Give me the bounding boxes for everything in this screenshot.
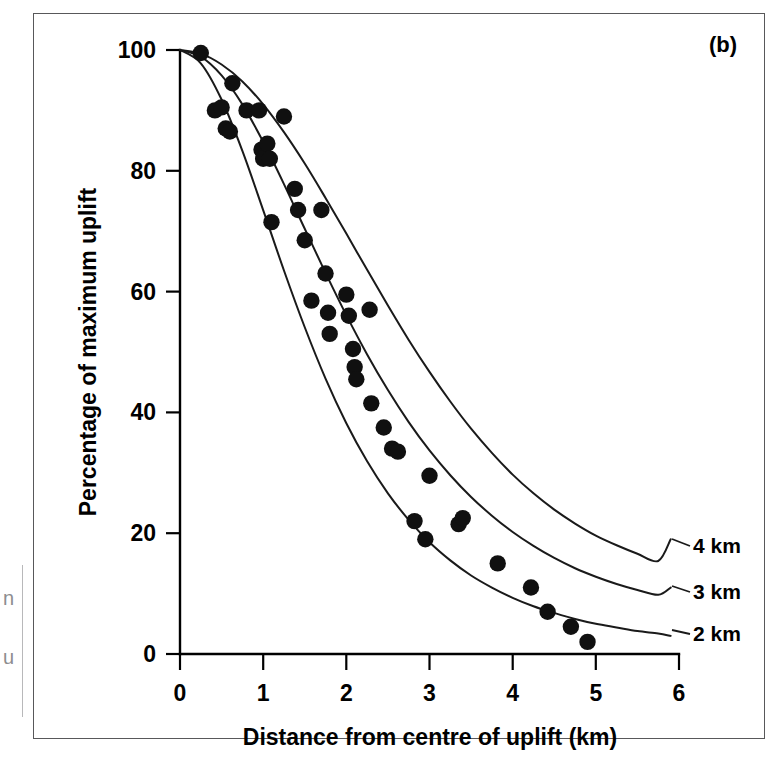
x-tick-label-4: 4 (506, 680, 519, 706)
figure-root: 100 80 60 40 20 0 0 1 2 3 4 5 6 Distance… (0, 0, 781, 766)
x-tick-label-2: 2 (340, 680, 353, 706)
curve-label-2km: 2 km (693, 622, 741, 645)
data-point (341, 308, 357, 324)
curve-3km (180, 50, 671, 595)
data-point (320, 305, 336, 321)
panel-label: (b) (709, 32, 737, 57)
data-point (262, 151, 278, 167)
data-point (193, 45, 209, 61)
y-axis-ticks (166, 50, 180, 654)
curve-4km (180, 50, 671, 561)
data-point (490, 555, 506, 571)
data-point (259, 135, 275, 151)
data-point (406, 513, 422, 529)
x-axis-tick-labels: 0 1 2 3 4 5 6 (174, 680, 686, 706)
x-tick-label-3: 3 (423, 680, 436, 706)
data-point (303, 292, 319, 308)
data-point (376, 419, 392, 435)
curve-label-3km: 3 km (693, 580, 741, 603)
data-point (317, 265, 333, 281)
leader-line-4km (672, 539, 690, 546)
x-axis-ticks (180, 654, 679, 670)
data-point (455, 510, 471, 526)
x-tick-label-1: 1 (257, 680, 270, 706)
y-tick-label-20: 20 (130, 520, 156, 546)
y-tick-label-100: 100 (118, 37, 156, 63)
x-axis-title: Distance from centre of uplift (km) (243, 724, 617, 750)
y-axis-title: Percentage of maximum uplift (75, 187, 101, 516)
data-point (263, 214, 279, 230)
data-point (348, 371, 364, 387)
data-point (322, 326, 338, 342)
curve-label-4km: 4 km (693, 534, 741, 557)
y-axis-tick-labels: 100 80 60 40 20 0 (118, 37, 156, 667)
scatter-points-group (193, 45, 596, 650)
stray-glyph-upper: n (3, 587, 14, 609)
leader-line-3km (672, 586, 690, 592)
data-point (363, 395, 379, 411)
model-curves-group (180, 50, 671, 636)
x-tick-label-6: 6 (673, 680, 686, 706)
data-point (224, 75, 240, 91)
data-point (579, 634, 595, 650)
chart-canvas: 100 80 60 40 20 0 0 1 2 3 4 5 6 Distance… (0, 0, 781, 766)
data-point (563, 619, 579, 635)
data-point (361, 302, 377, 318)
y-tick-label-60: 60 (130, 279, 156, 305)
y-tick-label-80: 80 (130, 158, 156, 184)
stray-glyph-lower: u (3, 646, 14, 668)
data-point (421, 468, 437, 484)
data-point (523, 579, 539, 595)
data-point (345, 341, 361, 357)
leader-line-2km (672, 630, 690, 634)
data-point (313, 202, 329, 218)
data-point (539, 604, 555, 620)
y-tick-label-0: 0 (143, 641, 156, 667)
x-tick-label-0: 0 (174, 680, 187, 706)
page-edge-glyphs: n u (3, 587, 14, 668)
data-point (417, 531, 433, 547)
data-point (390, 443, 406, 459)
data-point (297, 232, 313, 248)
data-point (213, 99, 229, 115)
data-point (338, 286, 354, 302)
data-point (222, 123, 238, 139)
data-point (251, 102, 267, 118)
y-tick-label-40: 40 (130, 399, 156, 425)
curve-labels-group: 4 km 3 km 2 km (693, 534, 741, 645)
x-tick-label-5: 5 (589, 680, 602, 706)
curve-2km (180, 50, 671, 636)
data-point (287, 181, 303, 197)
curve-label-leaders (672, 539, 690, 634)
data-point (276, 108, 292, 124)
data-point (290, 202, 306, 218)
